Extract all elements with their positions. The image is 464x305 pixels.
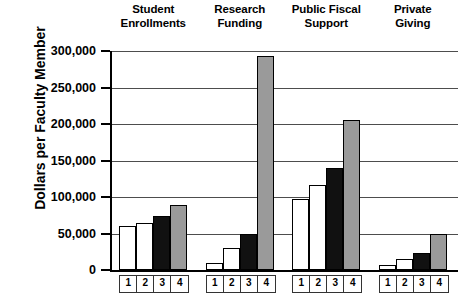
- y-axis-tick-label: 50,000: [58, 228, 96, 240]
- x-axis-tick-label: 2: [397, 276, 414, 292]
- y-axis-tick-label: 150,000: [51, 155, 96, 167]
- bar[interactable]: [379, 265, 396, 270]
- bars-layer: [110, 51, 456, 270]
- bar[interactable]: [119, 226, 136, 270]
- x-axis-label-box-4: 1234: [379, 275, 449, 293]
- category-header-line2: Funding: [197, 16, 284, 30]
- x-axis-tick-label: 3: [327, 276, 344, 292]
- y-axis-tick-label: 200,000: [51, 118, 96, 130]
- bar[interactable]: [153, 216, 170, 270]
- category-header-line1: Student: [110, 2, 197, 16]
- bar[interactable]: [240, 234, 257, 270]
- x-axis-tick-label: 4: [431, 276, 448, 292]
- y-axis-ticks: 300,000250,000200,000150,000100,00050,00…: [0, 0, 110, 305]
- x-axis-tick-label: 4: [171, 276, 188, 292]
- category-header-line1: Private: [370, 2, 457, 16]
- category-header-line2: Giving: [370, 16, 457, 30]
- bar[interactable]: [343, 120, 360, 270]
- y-axis-tick: 50,000: [0, 228, 110, 240]
- bar-group-public-fiscal-support: [292, 51, 360, 270]
- category-header-research-funding: Research Funding: [197, 2, 284, 42]
- bar[interactable]: [396, 259, 413, 270]
- category-header-line1: Research: [197, 2, 284, 16]
- bar-group-research-funding: [206, 51, 274, 270]
- y-axis-tick: 250,000: [0, 82, 110, 94]
- bar[interactable]: [257, 56, 274, 270]
- x-axis-tick-label: 3: [154, 276, 171, 292]
- bar[interactable]: [292, 199, 309, 270]
- x-axis-tick-label: 2: [224, 276, 241, 292]
- category-header-student-enrollments: Student Enrollments: [110, 2, 197, 42]
- x-axis-tick-label: 1: [380, 276, 397, 292]
- category-headers: Student Enrollments Research Funding Pub…: [110, 2, 456, 42]
- y-axis-tick-mark: [101, 123, 110, 125]
- x-axis-label-box-3: 1234: [292, 275, 362, 293]
- y-axis-tick: 150,000: [0, 155, 110, 167]
- y-axis-tick-mark: [101, 196, 110, 198]
- x-axis-tick-label: 3: [414, 276, 431, 292]
- y-axis-tick: 200,000: [0, 118, 110, 130]
- bar-group-student-enrollments: [119, 51, 187, 270]
- y-axis-tick-mark: [101, 87, 110, 89]
- x-axis-label-box-2: 1234: [206, 275, 276, 293]
- x-axis-tick-label: 4: [258, 276, 275, 292]
- x-axis-tick-label: 3: [241, 276, 258, 292]
- y-axis-tick-label: 0: [89, 264, 96, 276]
- x-axis-tick-label: 1: [120, 276, 137, 292]
- x-axis-label-box-1: 1234: [119, 275, 189, 293]
- y-axis-tick-label: 300,000: [51, 45, 96, 57]
- y-axis-tick-mark: [101, 160, 110, 162]
- bar[interactable]: [413, 253, 430, 270]
- y-axis-tick: 100,000: [0, 191, 110, 203]
- bar-group-private-giving: [379, 51, 447, 270]
- bar-chart: Student Enrollments Research Funding Pub…: [0, 0, 464, 305]
- category-header-public-fiscal-support: Public Fiscal Support: [283, 2, 370, 42]
- x-axis-tick-label: 1: [293, 276, 310, 292]
- bar[interactable]: [326, 168, 343, 270]
- category-header-line1: Public Fiscal: [283, 2, 370, 16]
- category-header-line2: Support: [283, 16, 370, 30]
- category-header-private-giving: Private Giving: [370, 2, 457, 42]
- y-axis-tick-label: 100,000: [51, 191, 96, 203]
- bar[interactable]: [136, 223, 153, 270]
- x-axis-label-boxes: 1234123412341234: [110, 275, 456, 295]
- y-axis-tick-label: 250,000: [51, 82, 96, 94]
- y-axis-tick-mark: [101, 50, 110, 52]
- x-axis-tick-label: 4: [344, 276, 361, 292]
- bar[interactable]: [170, 205, 187, 270]
- bar[interactable]: [430, 234, 447, 270]
- x-axis-tick-label: 2: [310, 276, 327, 292]
- y-axis-tick: 300,000: [0, 45, 110, 57]
- y-axis-tick: 0: [0, 264, 110, 276]
- category-header-line2: Enrollments: [110, 16, 197, 30]
- x-axis-tick-label: 2: [137, 276, 154, 292]
- y-axis-tick-mark: [101, 233, 110, 235]
- x-axis-tick-label: 1: [207, 276, 224, 292]
- bar[interactable]: [223, 248, 240, 270]
- y-axis-tick-mark: [101, 269, 110, 271]
- bar[interactable]: [309, 185, 326, 270]
- bar[interactable]: [206, 263, 223, 270]
